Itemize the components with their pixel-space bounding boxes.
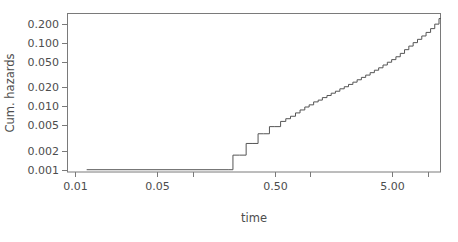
x-tick-label: 0.01 bbox=[63, 180, 88, 193]
x-tick-label: 0.50 bbox=[263, 180, 288, 193]
figure-background bbox=[0, 0, 458, 242]
y-tick-label: 0.200 bbox=[28, 18, 60, 31]
y-tick-label: 0.020 bbox=[28, 81, 60, 94]
y-tick-label: 0.002 bbox=[28, 145, 60, 158]
y-axis-title: Cum. hazards bbox=[3, 53, 17, 132]
cumulative-hazard-plot: 0.0010.0020.0050.0100.0200.0500.1000.200… bbox=[0, 0, 458, 242]
chart-figure: 0.0010.0020.0050.0100.0200.0500.1000.200… bbox=[0, 0, 458, 242]
y-tick-label: 0.005 bbox=[28, 119, 60, 132]
x-tick-label: 0.05 bbox=[145, 180, 170, 193]
y-tick-label: 0.100 bbox=[28, 37, 60, 50]
y-tick-label: 0.001 bbox=[28, 164, 60, 177]
y-tick-label: 0.050 bbox=[28, 56, 60, 69]
x-axis-title: time bbox=[241, 211, 267, 225]
x-tick-label: 5.00 bbox=[380, 180, 405, 193]
y-tick-label: 0.010 bbox=[28, 100, 60, 113]
